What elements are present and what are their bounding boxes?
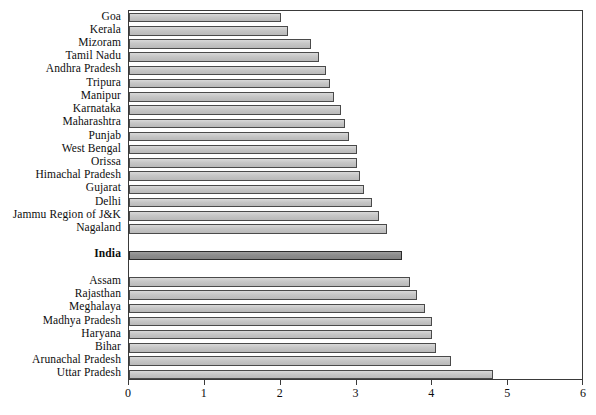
plot-area [128,10,583,380]
category-label: India [0,248,121,260]
bar [129,105,341,115]
category-label: Maharashtra [0,116,121,128]
category-label: Orissa [0,156,121,168]
bar [129,52,319,62]
category-label: Arunachal Pradesh [0,354,121,366]
x-tick [582,380,583,385]
category-label: Delhi [0,196,121,208]
bar-highlight [129,251,402,261]
category-label: Assam [0,275,121,287]
x-tick [356,380,357,385]
bar [129,198,372,208]
category-label: Haryana [0,328,121,340]
bar [129,79,330,89]
bar [129,26,288,36]
bar [129,304,425,314]
bar [129,158,357,168]
category-label: Karnataka [0,103,121,115]
bar [129,317,432,327]
category-label: Uttar Pradesh [0,367,121,379]
bar [129,119,345,129]
category-label: Tamil Nadu [0,50,121,62]
x-tick-label: 3 [341,387,371,400]
bar [129,277,410,287]
category-label: Bihar [0,341,121,353]
category-label: Kerala [0,24,121,36]
bar [129,330,432,340]
category-label: Nagaland [0,222,121,234]
x-tick [128,380,129,385]
bar [129,145,357,155]
category-label: Madhya Pradesh [0,315,121,327]
bar-chart: GoaKeralaMizoramTamil NaduAndhra Pradesh… [0,0,596,415]
bar [129,224,387,234]
bar [129,132,349,142]
bar [129,370,493,380]
category-label: Mizoram [0,37,121,49]
category-label: West Bengal [0,143,121,155]
bar [129,356,451,366]
bar [129,39,311,49]
bar [129,92,334,102]
bar [129,185,364,195]
x-tick-label: 2 [265,387,295,400]
x-tick-label: 0 [113,387,143,400]
x-tick-label: 5 [492,387,522,400]
category-label: Andhra Pradesh [0,63,121,75]
category-label: Himachal Pradesh [0,169,121,181]
category-axis-labels: GoaKeralaMizoramTamil NaduAndhra Pradesh… [0,10,125,380]
bar [129,13,281,23]
x-tick [431,380,432,385]
category-label: Goa [0,11,121,23]
category-label: Rajasthan [0,288,121,300]
bar [129,343,436,353]
bar [129,211,379,221]
x-tick-label: 6 [568,387,596,400]
category-label: Jammu Region of J&K [0,209,121,221]
x-tick-label: 1 [189,387,219,400]
bars-container [129,11,582,379]
category-label: Gujarat [0,182,121,194]
category-label: Punjab [0,130,121,142]
x-tick [204,380,205,385]
category-label: Tripura [0,77,121,89]
bar [129,66,326,76]
bar [129,290,417,300]
x-tick-label: 4 [416,387,446,400]
x-tick [280,380,281,385]
x-tick [507,380,508,385]
category-label: Manipur [0,90,121,102]
category-label: Meghalaya [0,301,121,313]
bar [129,171,360,181]
